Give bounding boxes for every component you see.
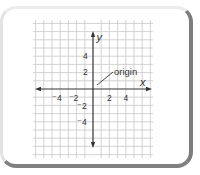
x-tick-label: 2	[107, 93, 112, 103]
x-axis-arrow-right-icon	[146, 87, 152, 91]
origin-pointer-line	[97, 72, 113, 85]
x-axis-label: x	[139, 76, 146, 88]
x-tick-label: ⁻4	[52, 93, 62, 103]
y-tick-label: ⁻4	[77, 117, 87, 127]
x-tick-label: 4	[124, 93, 129, 103]
y-axis-label: y	[96, 31, 104, 43]
y-axis-arrow-down-icon	[91, 142, 95, 148]
coordinate-plane: y x origin ⁻4 ⁻2 2 4 4 2 ⁻2 ⁻4	[0, 0, 200, 175]
y-tick-label: 2	[83, 67, 88, 77]
y-tick-label: 4	[83, 51, 88, 61]
y-tick-label: ⁻2	[77, 101, 87, 111]
origin-label: origin	[114, 66, 137, 77]
